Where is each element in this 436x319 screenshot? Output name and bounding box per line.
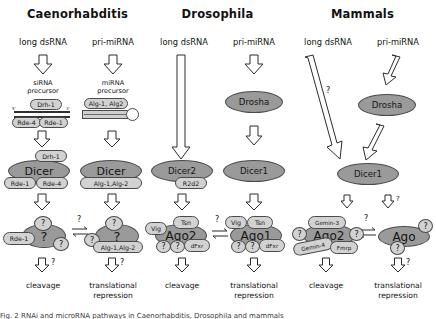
partner-label: ? [175,242,179,251]
dicer-partner-r2d2: R2d2 [175,177,207,189]
partner-label: ? [395,244,399,253]
column-title-caenorhabditis: Caenorhabditis [10,7,145,21]
dicer-partner-alg1-alg2: Alg-1,Alg-2 [80,177,142,189]
partner-label: Fmrp [337,245,352,251]
partner-label: Rde-1 [11,180,30,187]
label-mirna-precursor-line2: precursor [77,87,149,95]
drosha-dm: Drosha [225,91,283,113]
partner-label: Alg-1,Alg-2 [94,180,129,187]
factor-alg1-alg2-on-precursor: Alg-1, Alg2 [84,98,128,109]
ago2-mm-partner-unknown-right: ? [349,227,364,241]
label-sirna-precursor-line1: siRNA [7,79,79,87]
outcome-mm-translational-line2: repression [360,291,436,300]
arrow-mm-ago-to-repression [390,258,406,273]
ago2-mm-partner-unknown-left: ? [292,227,307,241]
arrow-q-mm-dicer-to-ago: ? [396,195,400,203]
arrow-dm-dsrna-to-dicer2-long [169,55,193,160]
drosha-label: Drosha [239,97,269,107]
factor-rde1-on-precursor: Rde-1 [39,117,68,128]
ago2-partner-unknown-1: ? [156,240,171,253]
partner-label: Drh-1 [42,153,60,160]
dicer-partner-rde1: Rde-1 [4,177,36,189]
equilibrium-arrows-dm [211,228,229,239]
arrow-mm-drosha-to-dicer1 [360,124,394,164]
factor-label: Rde-4 [17,119,36,126]
arrow-cel-risc-to-repression [104,258,120,273]
column-title-mammals: Mammals [295,7,430,21]
dicer-label: Dicer [97,165,126,178]
arrow-mm-ago2-to-cleavage [318,258,334,273]
partner-label: Vig [151,225,161,232]
arrow-q-cel-cleavage: ? [51,258,55,267]
arrow-cel-primirna-to-precursor [103,55,123,75]
arrow-cel-risc-to-cleavage [34,258,50,273]
figure-caption-clipped: Fig. 2 RNAi and microRNA pathways in Cae… [0,312,436,319]
risc-partner-unknown-top-cel-mirna: ? [105,216,123,231]
factor-label: Drh-1 [37,101,55,108]
factor-label: Rde-1 [44,119,63,126]
dicer-label: Dicer1 [240,166,268,176]
arrow-mm-primirna-to-drosha [382,55,416,89]
partner-label: ? [354,230,358,239]
outcome-dm-translational-line2: repression [216,291,292,300]
partner-label: dFxr [266,243,278,249]
dicer-label: Dicer2 [168,166,196,176]
arrow-dm-primirna-to-drosha [244,55,264,75]
partner-label: Rde-1 [10,235,29,242]
partner-label: Alg-1,Alg-2 [101,244,136,251]
partner-label: ? [250,242,254,251]
arrow-dm-drosha-to-dicer1 [245,126,263,146]
outcome-mm-cleavage: cleavage [290,281,362,290]
partner-label: Gemin-3 [315,220,339,226]
risc-partner-unknown-right-cel-sirna: ? [53,237,69,251]
arrow-mm-dicer1-to-ago2 [340,195,354,209]
ago-mm-partner-unknown-bottom: ? [390,241,405,255]
dicer-label: Dicer [25,165,54,178]
dicer1-mm: Dicer1 [337,163,399,185]
risc-partner-alg1-alg2: Alg-1,Alg-2 [93,241,143,253]
ago2-partner-tsn: Tsn [173,216,199,229]
source-label-mm-long-dsrna: long dsRNA [292,37,364,47]
outcome-mm-translational-line1: translational [360,281,436,290]
arrow-dm-ago1-to-repression [246,258,262,273]
ago2-partner-vig: Vig [145,222,167,235]
risc-partner-rde1: Rde-1 [3,232,35,245]
partner-label: ? [297,230,301,239]
drosha-label: Drosha [372,100,402,110]
caption-text: Fig. 2 RNAi and microRNA pathways in Cae… [0,312,284,319]
dicer1-dm: Dicer1 [223,160,285,182]
arrow-dm-dicer2-to-ago2 [173,194,191,211]
sirna-duplex-end-label-right: 3' [66,106,70,111]
equilibrium-question-mm: ? [364,214,368,223]
source-label-cel-pri-mirna: pri-miRNA [77,37,149,47]
ago1-partner-dfxr: dFxr [259,239,285,252]
arrow-dm-dicer1-to-ago1 [245,194,263,211]
partner-label: ? [236,242,240,251]
arrow-cel-dicer-to-risc [33,194,51,211]
arrow-mm-dicer1-to-ago [381,195,395,209]
partner-label: Rde-4 [43,180,62,187]
partner-label: ? [59,240,63,249]
arrow-cel-dsrna-to-precursor [33,55,53,75]
partner-label: Vig [231,219,241,226]
mirna-hairpin-stem [82,110,130,119]
label-mirna-precursor-line1: miRNA [77,79,149,87]
partner-label: Tsn [255,219,265,226]
outcome-cel-translational-line2: repression [75,291,151,300]
ago1-partner-vig: Vig [225,216,247,229]
ago1-partner-tsn: Tsn [247,216,273,229]
arrow-cel-mirna-precursor-to-dicer [103,131,121,148]
arrow-cel-precursor-to-dicer [33,131,51,148]
arrow-dm-ago2-to-cleavage [174,258,190,273]
ago2-partner-dfxr: dFxr [184,239,210,252]
sirna-duplex-strand-top [14,111,70,113]
partner-label: ? [112,219,116,228]
outcome-dm-translational-line1: translational [216,281,292,290]
ago2-partner-gemin3: Gemin-3 [308,216,346,229]
partner-label: ? [41,219,45,228]
factor-label: Alg-1, Alg2 [89,100,123,107]
source-label-dm-long-dsrna: long dsRNA [148,37,220,47]
ago1-partner-unknown-2: ? [245,240,260,253]
risc-partner-unknown-top-cel-sirna: ? [34,216,52,231]
arrow-cel-dicer-to-mirisc [103,194,121,211]
